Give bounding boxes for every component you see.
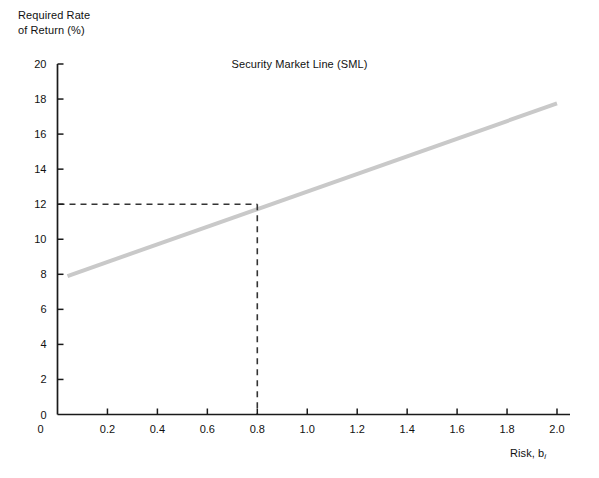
y-tick-label-10: 10 [34, 233, 46, 245]
x-tick-label-0.4: 0.4 [150, 423, 165, 435]
x-tick-label-1.6: 1.6 [449, 423, 464, 435]
y-tick-label-4: 4 [40, 338, 46, 350]
x-tick-label-2.0: 2.0 [549, 423, 564, 435]
x-tick-label-0: 0 [37, 423, 43, 435]
y-tick-label-12: 12 [34, 198, 46, 210]
y-tick-label-20: 20 [34, 58, 46, 70]
y-tick-label-8: 8 [40, 268, 46, 280]
x-tick-label-0.8: 0.8 [250, 423, 265, 435]
y-tick-label-16: 16 [34, 128, 46, 140]
plot-area: 0246810121416182000.20.40.60.81.01.21.41… [0, 0, 599, 478]
x-tick-label-1.4: 1.4 [400, 423, 415, 435]
x-tick-label-1.2: 1.2 [350, 423, 365, 435]
y-tick-label-18: 18 [34, 93, 46, 105]
x-tick-label-1.8: 1.8 [499, 423, 514, 435]
y-tick-label-14: 14 [34, 163, 46, 175]
y-tick-label-2: 2 [40, 373, 46, 385]
y-tick-label-6: 6 [40, 303, 46, 315]
x-tick-label-1.0: 1.0 [300, 423, 315, 435]
series-line-0 [67, 103, 557, 276]
x-tick-label-0.6: 0.6 [200, 423, 215, 435]
x-tick-label-0.2: 0.2 [100, 423, 115, 435]
y-tick-label-0: 0 [40, 409, 46, 421]
chart-figure: Required Rate of Return (%) Security Mar… [0, 0, 599, 478]
